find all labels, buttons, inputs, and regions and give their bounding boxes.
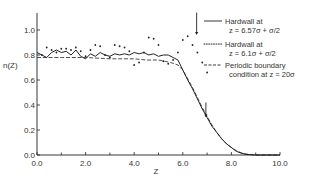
data-point [46,47,48,49]
x-tick-label: 2.0 [80,159,92,168]
data-point [124,47,126,49]
y-tick-label: 1.0 [24,26,36,35]
data-point [187,35,189,37]
data-point [138,62,140,64]
y-tick-label: 0.2 [24,126,36,135]
data-point [109,57,111,59]
legend-label: z = 6.1σ + σ/2 [229,49,276,58]
data-point [153,38,155,40]
arrow-down-icon [195,13,198,36]
data-point [119,45,121,47]
data-point [94,44,96,46]
arrow-down-icon [204,103,207,118]
data-point [201,62,203,64]
data-point [41,54,43,56]
legend-label: z = 6.57σ + σ/2 [229,26,280,35]
x-tick-label: 6.0 [177,159,189,168]
data-point [60,48,62,50]
data-point [143,52,145,54]
x-tick-label: 10.0 [272,159,288,168]
data-point [192,44,194,46]
y-tick-label: 0.6 [24,76,36,85]
data-point [133,64,135,66]
legend-item-solid: Hardwall at z = 6.57σ + σ/2 [204,17,280,35]
data-point [80,50,82,52]
legend-item-dashed: Periodic boundary condition at z = 20σ [204,61,295,79]
chart: 0.00.20.40.60.81.00.02.04.06.08.010.0Zn(… [0,0,309,180]
data-point [70,49,72,51]
data-point [56,52,58,54]
data-point [158,44,160,46]
x-axis-label: Z [154,167,159,176]
legend-label: condition at z = 20σ [229,70,295,79]
data-point [75,47,77,49]
data-point [206,72,208,74]
y-tick-label: 0.4 [24,101,36,110]
data-point [65,48,67,50]
data-point [114,44,116,46]
axes: 0.00.20.40.60.81.00.02.04.06.08.010.0Zn(… [3,13,288,176]
data-point [182,39,184,41]
data-point [167,63,169,65]
data-point [51,49,53,51]
legend-label: Hardwall at [225,40,263,49]
x-tick-label: 4.0 [129,159,141,168]
data-point [162,60,164,62]
data-point [99,45,101,47]
x-tick-label: 0.0 [31,159,43,168]
data-point [196,52,198,54]
legend-item-dotted: Hardwall at z = 6.1σ + σ/2 [204,40,276,59]
data-point [85,55,87,57]
legend: Hardwall at z = 6.57σ + σ/2 Hardwall at … [204,17,295,79]
y-tick-label: 0.8 [24,51,36,60]
legend-label: Hardwall at [225,17,263,26]
data-point [172,59,174,61]
x-tick-label: 8.0 [226,159,238,168]
data-point [104,54,106,56]
data-point [177,52,179,54]
data-point [90,49,92,51]
data-point [128,50,130,52]
series-dotted [41,35,208,73]
y-axis-label: n(Z) [3,61,18,70]
legend-label: Periodic boundary [225,61,286,70]
data-point [148,37,150,39]
